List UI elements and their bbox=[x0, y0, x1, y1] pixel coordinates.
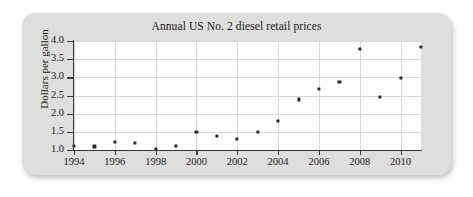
x-tick-label: 2000 bbox=[179, 156, 213, 167]
data-point bbox=[195, 131, 198, 134]
gridline-horizontal bbox=[74, 132, 421, 133]
data-point bbox=[277, 119, 280, 122]
data-point bbox=[297, 98, 300, 101]
data-point bbox=[236, 137, 239, 140]
data-point bbox=[256, 130, 259, 133]
x-tick-mark bbox=[237, 151, 238, 155]
data-point bbox=[338, 80, 341, 83]
data-point bbox=[215, 134, 218, 137]
gridline-vertical bbox=[115, 41, 116, 150]
y-tick-mark bbox=[67, 150, 73, 151]
x-tick-label: 2010 bbox=[384, 156, 418, 167]
gridline-vertical bbox=[319, 41, 320, 150]
y-tick-label: 3.0 bbox=[40, 70, 64, 81]
x-tick-mark bbox=[196, 151, 197, 155]
plot-area bbox=[74, 41, 421, 150]
x-tick-label: 1998 bbox=[139, 156, 173, 167]
data-point bbox=[358, 47, 361, 50]
data-point bbox=[174, 144, 177, 147]
data-point bbox=[93, 145, 96, 148]
x-axis-line bbox=[73, 150, 422, 151]
gridline-vertical bbox=[156, 41, 157, 150]
chart-title: Annual US No. 2 diesel retail prices bbox=[22, 20, 451, 32]
x-tick-mark bbox=[74, 151, 75, 155]
data-point bbox=[317, 87, 320, 90]
data-point bbox=[399, 76, 402, 79]
x-tick-mark bbox=[115, 151, 116, 155]
y-tick-label: 3.5 bbox=[40, 52, 64, 63]
gridline-horizontal bbox=[74, 114, 421, 115]
y-tick-mark bbox=[67, 114, 73, 115]
y-tick-mark bbox=[67, 96, 73, 97]
x-tick-mark bbox=[156, 151, 157, 155]
y-tick-mark bbox=[67, 41, 73, 42]
gridline-vertical bbox=[278, 41, 279, 150]
y-tick-mark bbox=[67, 132, 73, 133]
gridline-vertical bbox=[360, 41, 361, 150]
x-tick-label: 2008 bbox=[343, 156, 377, 167]
y-tick-label: 2.5 bbox=[40, 89, 64, 100]
x-tick-mark bbox=[278, 151, 279, 155]
gridline-vertical bbox=[401, 41, 402, 150]
x-tick-mark bbox=[401, 151, 402, 155]
gridline-horizontal bbox=[74, 41, 421, 42]
y-tick-label: 1.0 bbox=[40, 143, 64, 154]
gridline-vertical bbox=[196, 41, 197, 150]
data-point bbox=[419, 46, 422, 49]
x-tick-mark bbox=[360, 151, 361, 155]
gridline-horizontal bbox=[74, 96, 421, 97]
y-tick-label: 2.0 bbox=[40, 107, 64, 118]
y-axis-line bbox=[73, 40, 74, 151]
y-tick-label: 1.5 bbox=[40, 125, 64, 136]
y-tick-mark bbox=[67, 59, 73, 60]
gridline-horizontal bbox=[74, 77, 421, 78]
y-tick-label: 4.0 bbox=[40, 34, 64, 45]
gridline-vertical bbox=[237, 41, 238, 150]
x-tick-label: 2004 bbox=[261, 156, 295, 167]
x-tick-mark bbox=[319, 151, 320, 155]
gridline-horizontal bbox=[74, 59, 421, 60]
data-point bbox=[379, 95, 382, 98]
x-tick-label: 2006 bbox=[302, 156, 336, 167]
data-point bbox=[113, 140, 116, 143]
y-tick-mark bbox=[67, 77, 73, 78]
x-tick-label: 1994 bbox=[57, 156, 91, 167]
x-tick-label: 1996 bbox=[98, 156, 132, 167]
figure-card: Annual US No. 2 diesel retail prices Dol… bbox=[22, 13, 451, 175]
x-tick-label: 2002 bbox=[220, 156, 254, 167]
data-point bbox=[134, 142, 137, 145]
